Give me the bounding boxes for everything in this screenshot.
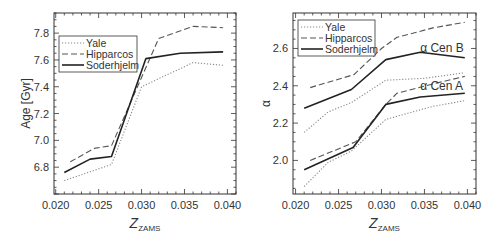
age-vs-z-panel: 0.0200.0250.0300.0350.0406.87.07.27.47.6… xyxy=(19,13,241,233)
x-tick-label: 0.030 xyxy=(368,199,396,211)
x-axis-label: ZZAMS xyxy=(368,215,400,233)
y-axis-label: Age [Gyr] xyxy=(19,78,33,129)
y-tick-label: 2.6 xyxy=(273,42,288,54)
y-tick-label: 7.4 xyxy=(34,81,49,93)
x-tick-label: 0.040 xyxy=(214,199,242,211)
legend: YaleHipparcosSoderhjelm xyxy=(298,20,378,56)
x-axis-label-subscript: ZAMS xyxy=(378,224,400,233)
y-axis-label: α xyxy=(259,100,273,107)
alpha-vs-z-panel: 0.0200.0250.0300.0350.0402.02.22.42.6ZZA… xyxy=(259,13,481,233)
x-tick-label: 0.020 xyxy=(282,199,310,211)
figure: 0.0200.0250.0300.0350.0406.87.07.27.47.6… xyxy=(0,0,497,237)
legend-label-soderhjelm: Soderhjelm xyxy=(325,43,378,55)
x-tick-label: 0.035 xyxy=(171,199,199,211)
series-yale-line xyxy=(64,63,223,181)
y-tick-label: 2.4 xyxy=(273,80,288,92)
y-tick-label: 7.2 xyxy=(34,108,49,120)
legend: YaleHipparcosSoderhjelm xyxy=(59,36,139,72)
annotation-label: α Cen A xyxy=(420,79,463,93)
y-tick-label: 7.6 xyxy=(34,54,49,66)
legend-label-soderhjelm: Soderhjelm xyxy=(86,59,139,71)
x-tick-label: 0.025 xyxy=(85,199,113,211)
x-tick-label: 0.020 xyxy=(42,199,70,211)
x-axis-label: ZZAMS xyxy=(129,215,161,233)
series-soderhjelm-cena-line xyxy=(304,93,465,170)
y-tick-label: 2.2 xyxy=(273,117,288,129)
y-tick-label: 7.0 xyxy=(34,134,49,146)
x-axis-label-subscript: ZAMS xyxy=(138,224,160,233)
x-tick-label: 0.035 xyxy=(411,199,439,211)
y-tick-label: 6.8 xyxy=(34,161,49,173)
y-tick-label: 7.8 xyxy=(34,27,49,39)
x-tick-label: 0.040 xyxy=(454,199,482,211)
x-axis-label-main: Z xyxy=(368,215,378,231)
x-axis-label-main: Z xyxy=(129,215,139,231)
series-yale-cena-line xyxy=(304,101,465,187)
x-tick-label: 0.030 xyxy=(128,199,156,211)
annotation-label: α Cen B xyxy=(420,41,464,55)
y-tick-label: 2.0 xyxy=(273,154,288,166)
x-tick-label: 0.025 xyxy=(325,199,353,211)
